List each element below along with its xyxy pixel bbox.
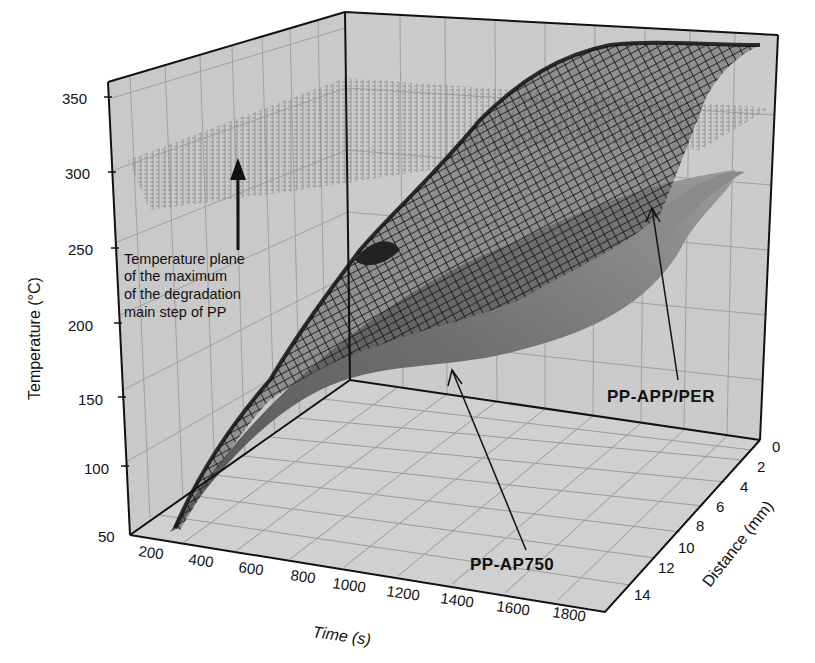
z-axis-title: Distance (mm) bbox=[699, 497, 776, 589]
z-tick-14: 14 bbox=[634, 586, 651, 603]
y-tick-350: 350 bbox=[62, 90, 87, 107]
y-tick-50: 50 bbox=[98, 528, 115, 545]
x-tick-800: 800 bbox=[290, 566, 317, 586]
y-axis-title: Temperature (°C) bbox=[26, 277, 43, 400]
annotation-line-3: of the degradation bbox=[124, 286, 241, 302]
chart-3d-surface: 350 300 250 200 150 100 50 Temperature (… bbox=[0, 0, 815, 663]
y-tick-300: 300 bbox=[65, 165, 90, 182]
annotation-line-4: main step of PP bbox=[124, 304, 226, 320]
z-tick-4: 4 bbox=[740, 478, 748, 495]
z-tick-12: 12 bbox=[658, 559, 675, 576]
z-tick-8: 8 bbox=[696, 517, 704, 534]
series-label-pp-ap750: PP-AP750 bbox=[470, 555, 554, 574]
x-tick-200: 200 bbox=[138, 542, 165, 562]
x-tick-1800: 1800 bbox=[552, 603, 587, 624]
y-tick-100: 100 bbox=[84, 460, 109, 477]
annotation-line-2: of the maximum bbox=[124, 268, 227, 284]
x-axis-title: Time (s) bbox=[312, 623, 372, 648]
x-tick-1400: 1400 bbox=[440, 589, 475, 610]
z-tick-2: 2 bbox=[757, 458, 765, 475]
y-tick-150: 150 bbox=[78, 391, 103, 408]
x-tick-1600: 1600 bbox=[496, 597, 531, 618]
x-tick-400: 400 bbox=[188, 550, 215, 570]
y-tick-200: 200 bbox=[68, 317, 93, 334]
x-tick-600: 600 bbox=[238, 558, 265, 578]
x-tick-1000: 1000 bbox=[332, 574, 367, 595]
z-tick-6: 6 bbox=[716, 498, 724, 515]
series-label-pp-app-per: PP-APP/PER bbox=[607, 387, 715, 406]
z-tick-0: 0 bbox=[772, 438, 780, 455]
x-tick-1200: 1200 bbox=[386, 582, 421, 603]
z-tick-10: 10 bbox=[678, 539, 695, 556]
y-tick-250: 250 bbox=[68, 241, 93, 258]
annotation-line-1: Temperature plane bbox=[124, 251, 245, 267]
